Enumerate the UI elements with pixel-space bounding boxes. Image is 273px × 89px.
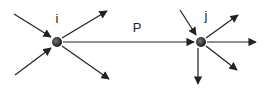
edge-in-i-lower (15, 48, 51, 75)
edge-out-j-upper (206, 15, 238, 38)
nodes-group: ij (52, 8, 208, 47)
edge-out-i-lower (62, 46, 109, 79)
edge-label-p: P (133, 20, 142, 35)
node-label-i: i (56, 11, 59, 26)
edge-out-j-lower (206, 46, 237, 70)
node-i (52, 37, 62, 47)
node-label-j: j (204, 8, 208, 23)
edge-in-i-upper (14, 14, 51, 37)
edge-out-i-upper (62, 11, 107, 38)
edge-in-j-upper (180, 10, 196, 35)
node-j (196, 37, 206, 47)
diagram-canvas: ij P (0, 0, 273, 89)
